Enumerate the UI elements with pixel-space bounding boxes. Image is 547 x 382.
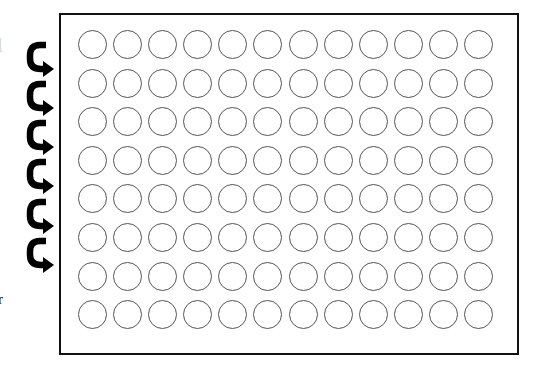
well-F10 <box>394 223 423 252</box>
well-H10 <box>394 300 423 329</box>
well-E5 <box>218 184 247 213</box>
well-C11 <box>429 107 458 136</box>
well-C5 <box>218 107 247 136</box>
well-G9 <box>359 262 388 291</box>
well-C7 <box>289 107 318 136</box>
well-A8 <box>324 30 353 59</box>
well-C10 <box>394 107 423 136</box>
well-F3 <box>148 223 177 252</box>
well-H9 <box>359 300 388 329</box>
well-B2 <box>113 69 142 98</box>
well-A2 <box>113 30 142 59</box>
well-D5 <box>218 146 247 175</box>
well-G12 <box>464 262 493 291</box>
well-C4 <box>183 107 212 136</box>
well-E8 <box>324 184 353 213</box>
well-B5 <box>218 69 247 98</box>
well-D2 <box>113 146 142 175</box>
well-D8 <box>324 146 353 175</box>
well-A3 <box>148 30 177 59</box>
well-H11 <box>429 300 458 329</box>
well-B7 <box>289 69 318 98</box>
well-E12 <box>464 184 493 213</box>
well-G7 <box>289 262 318 291</box>
well-B10 <box>394 69 423 98</box>
well-D6 <box>253 146 282 175</box>
well-G4 <box>183 262 212 291</box>
well-E9 <box>359 184 388 213</box>
well-H1 <box>78 300 107 329</box>
well-F9 <box>359 223 388 252</box>
well-E10 <box>394 184 423 213</box>
well-H5 <box>218 300 247 329</box>
well-D3 <box>148 146 177 175</box>
well-A1 <box>78 30 107 59</box>
well-G8 <box>324 262 353 291</box>
well-H3 <box>148 300 177 329</box>
well-A10 <box>394 30 423 59</box>
well-B9 <box>359 69 388 98</box>
well-C9 <box>359 107 388 136</box>
well-E6 <box>253 184 282 213</box>
well-G5 <box>218 262 247 291</box>
well-B6 <box>253 69 282 98</box>
arrow-4-icon <box>30 162 54 194</box>
well-F8 <box>324 223 353 252</box>
loading-direction-arrows <box>0 0 60 382</box>
well-B4 <box>183 69 212 98</box>
well-A12 <box>464 30 493 59</box>
well-A5 <box>218 30 247 59</box>
well-F1 <box>78 223 107 252</box>
well-H8 <box>324 300 353 329</box>
well-A7 <box>289 30 318 59</box>
well-F12 <box>464 223 493 252</box>
well-C3 <box>148 107 177 136</box>
well-G10 <box>394 262 423 291</box>
arrow-2-icon <box>30 84 54 116</box>
well-E1 <box>78 184 107 213</box>
arrow-1-icon <box>30 45 54 77</box>
well-F11 <box>429 223 458 252</box>
well-B3 <box>148 69 177 98</box>
well-D11 <box>429 146 458 175</box>
well-A4 <box>183 30 212 59</box>
well-C1 <box>78 107 107 136</box>
well-E2 <box>113 184 142 213</box>
well-D4 <box>183 146 212 175</box>
well-E7 <box>289 184 318 213</box>
well-B11 <box>429 69 458 98</box>
well-C6 <box>253 107 282 136</box>
well-A6 <box>253 30 282 59</box>
well-C8 <box>324 107 353 136</box>
well-E11 <box>429 184 458 213</box>
well-B1 <box>78 69 107 98</box>
well-H2 <box>113 300 142 329</box>
well-G6 <box>253 262 282 291</box>
well-H7 <box>289 300 318 329</box>
well-grid <box>78 30 493 329</box>
well-C12 <box>464 107 493 136</box>
well-F6 <box>253 223 282 252</box>
well-C2 <box>113 107 142 136</box>
well-D12 <box>464 146 493 175</box>
well-F2 <box>113 223 142 252</box>
well-F7 <box>289 223 318 252</box>
arrow-3-icon <box>30 123 54 155</box>
microplate-96-well <box>59 13 519 355</box>
well-H4 <box>183 300 212 329</box>
well-H6 <box>253 300 282 329</box>
well-B8 <box>324 69 353 98</box>
well-D9 <box>359 146 388 175</box>
well-A9 <box>359 30 388 59</box>
well-G3 <box>148 262 177 291</box>
well-E4 <box>183 184 212 213</box>
well-G11 <box>429 262 458 291</box>
well-E3 <box>148 184 177 213</box>
well-D10 <box>394 146 423 175</box>
well-H12 <box>464 300 493 329</box>
well-A11 <box>429 30 458 59</box>
well-F4 <box>183 223 212 252</box>
well-G2 <box>113 262 142 291</box>
well-D1 <box>78 146 107 175</box>
well-G1 <box>78 262 107 291</box>
